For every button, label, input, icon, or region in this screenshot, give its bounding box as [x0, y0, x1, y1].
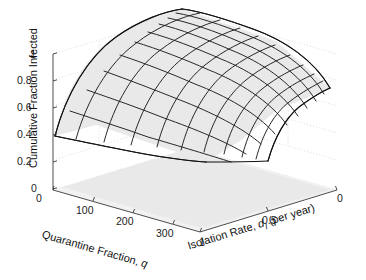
y-tick-0: 0	[337, 192, 343, 204]
z-axis-ticks	[53, 53, 57, 189]
x-tick-100: 100	[76, 204, 94, 216]
x-tick-0: 0	[36, 192, 42, 204]
z-axis-label: Cumulative Fraction Infected	[27, 3, 39, 193]
figure-3d-surface-plot: 1 0.8 0.6 0.4 0.2 0 0 100 200 300 1 0.5 …	[0, 0, 366, 280]
x-tick-300: 300	[156, 227, 174, 239]
x-tick-200: 200	[116, 215, 134, 227]
